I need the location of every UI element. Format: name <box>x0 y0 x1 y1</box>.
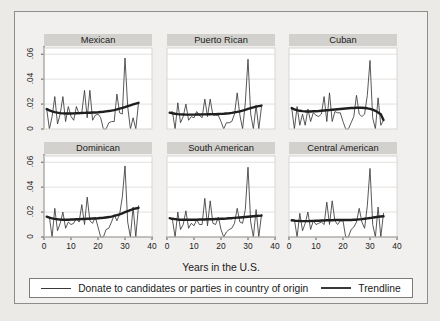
panel-title-bar: South American <box>167 142 275 154</box>
y-tick-label: .04 <box>26 68 35 90</box>
y-tick-label: 0 <box>26 118 35 140</box>
legend-entry-trendline: Trendline <box>321 283 401 294</box>
panel-title-cuban: Cuban <box>289 34 397 46</box>
x-tick-label: 20 <box>88 241 108 251</box>
y-tick-label: .06 <box>26 151 35 173</box>
panel-title-bar: Puerto Rican <box>167 34 275 46</box>
legend-label-trendline: Trendline <box>358 283 401 294</box>
x-tick-label: 0 <box>34 241 54 251</box>
x-tick-label: 30 <box>115 241 135 251</box>
panel-title-central-american: Central American <box>289 142 397 154</box>
panel-title-south-american: South American <box>167 142 275 154</box>
chart-frame: MexicanPuerto RicanCubanDominicanSouth A… <box>14 11 428 304</box>
x-tick-label: 20 <box>211 241 231 251</box>
legend-label-series: Donate to candidates or parties in count… <box>78 283 308 294</box>
x-tick-label: 30 <box>238 241 258 251</box>
x-tick-label: 0 <box>157 241 177 251</box>
y-tick-label: .02 <box>26 201 35 223</box>
x-tick-label: 0 <box>279 241 299 251</box>
y-tick-label: .02 <box>26 93 35 115</box>
panel-title-bar: Cuban <box>289 34 397 46</box>
legend-swatch-trendline-icon <box>321 287 351 290</box>
x-tick-label: 30 <box>360 241 380 251</box>
legend-entry-series: Donate to candidates or parties in count… <box>41 283 308 294</box>
y-tick-label: .04 <box>26 176 35 198</box>
panel-title-bar: Central American <box>289 142 397 154</box>
figure-canvas: MexicanPuerto RicanCubanDominicanSouth A… <box>0 0 440 321</box>
x-tick-label: 20 <box>333 241 353 251</box>
x-axis-title: Years in the U.S. <box>15 262 427 273</box>
x-tick-label: 40 <box>387 241 407 251</box>
x-tick-label: 10 <box>184 241 204 251</box>
panel-title-bar: Dominican <box>44 142 152 154</box>
legend-swatch-series-icon <box>41 288 71 289</box>
panel-title-mexican: Mexican <box>44 34 152 46</box>
y-tick-label: .06 <box>26 43 35 65</box>
panel-title-dominican: Dominican <box>44 142 152 154</box>
panel-title-bar: Mexican <box>44 34 152 46</box>
x-tick-label: 10 <box>306 241 326 251</box>
chart-legend: Donate to candidates or parties in count… <box>29 278 413 298</box>
panel-title-puerto-rican: Puerto Rican <box>167 34 275 46</box>
chart-plot-area <box>15 12 427 303</box>
x-tick-label: 10 <box>61 241 81 251</box>
